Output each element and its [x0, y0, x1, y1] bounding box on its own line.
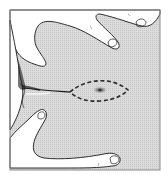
lesion-core	[98, 89, 101, 91]
medical-illustration: skin-stretching-with-fingers-elliptical-…	[0, 0, 168, 181]
illustration-canvas	[0, 0, 168, 181]
